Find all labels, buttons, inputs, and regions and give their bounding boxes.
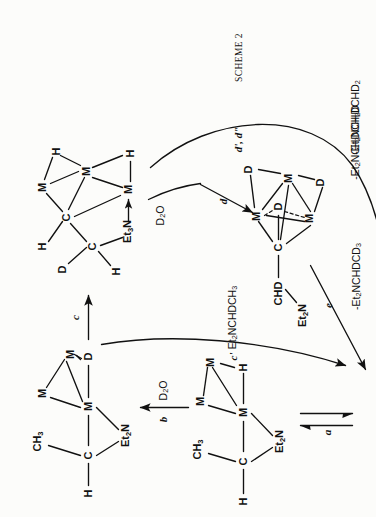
atom-label-m-right: M bbox=[283, 173, 294, 182]
atom-label-m-center: M bbox=[83, 401, 94, 410]
atom-label-ch3: CH3 bbox=[32, 431, 44, 451]
atom-label-m-center: M bbox=[238, 407, 249, 416]
atom-label-m-right: M bbox=[81, 166, 92, 175]
atom-label-m-left: M bbox=[304, 213, 315, 222]
step-label-d-primes: d', d" bbox=[231, 126, 243, 152]
atom-label-ch3: CH3 bbox=[192, 439, 204, 459]
atom-label-d: D bbox=[57, 265, 68, 273]
atom-label-h-left: H bbox=[238, 497, 249, 505]
atom-label-h-left: H bbox=[111, 267, 122, 275]
scheme-page: C H CH3 Et2N M M M D D H H C C Et3N M M … bbox=[0, 0, 376, 517]
atom-label-m-bottom: M bbox=[123, 184, 134, 193]
scheme-bond-lines bbox=[0, 0, 376, 517]
scheme-title: SCHEME 2 bbox=[233, 33, 243, 82]
atom-label-m-top: M bbox=[251, 211, 262, 220]
product-label-e: -Et2NCHDCD3 bbox=[349, 243, 363, 310]
step-label-a: a bbox=[320, 429, 332, 435]
step-label-b: b bbox=[156, 416, 168, 422]
atom-label-m-right: M bbox=[65, 349, 76, 358]
product-label-c-prime: Et2NCHDCH3 bbox=[225, 285, 239, 348]
step-label-e: e bbox=[321, 303, 333, 308]
step-label-d: d bbox=[216, 198, 228, 204]
atom-label-et3n: Et3N bbox=[122, 219, 134, 242]
atom-label-d-center: D bbox=[273, 202, 284, 210]
atom-label-h: H bbox=[83, 489, 94, 497]
step-label-c-prime: c' bbox=[226, 352, 238, 360]
atom-label-m-top: M bbox=[37, 388, 48, 397]
atom-label-m-right: M bbox=[205, 357, 216, 366]
rotated-scheme-canvas: C H CH3 Et2N M M M D D H H C C Et3N M M … bbox=[0, 0, 376, 517]
reagent-label-d2o-d: D2O bbox=[153, 205, 167, 225]
atom-label-et2n: Et2N bbox=[297, 303, 309, 326]
atom-label-et2n: Et2N bbox=[274, 429, 286, 452]
atom-label-d-bridge: D bbox=[83, 352, 94, 360]
atom-label-h-right: H bbox=[238, 363, 249, 371]
atom-label-d-upper: D bbox=[243, 165, 254, 173]
atom-label-h-upper: H bbox=[37, 242, 48, 250]
product-label-d-prime-2: -Et2NCHDCHD2 bbox=[348, 80, 362, 155]
atom-label-chd: CHD bbox=[273, 281, 284, 305]
atom-label-c: C bbox=[273, 243, 284, 251]
atom-label-et2n: Et2N bbox=[120, 423, 132, 446]
atom-label-d-lower: D bbox=[315, 178, 326, 186]
atom-label-m-top: M bbox=[37, 182, 48, 191]
atom-label-c: C bbox=[238, 457, 249, 465]
atom-label-c: C bbox=[83, 451, 94, 459]
atom-label-h-r1: H bbox=[51, 147, 62, 155]
scheme-canvas: C H CH3 Et2N M M M D D H H C C Et3N M M … bbox=[0, 0, 376, 517]
atom-label-m-top: M bbox=[195, 396, 206, 405]
atom-label-h-r2: H bbox=[125, 149, 136, 157]
atom-label-c-upper: C bbox=[61, 213, 72, 221]
step-label-c: c bbox=[68, 315, 80, 320]
atom-label-c-lower: C bbox=[87, 242, 98, 250]
reagent-label-d2o-b: D2O bbox=[156, 380, 170, 400]
